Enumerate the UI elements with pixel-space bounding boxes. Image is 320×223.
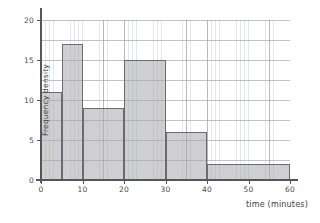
y-tick-mark xyxy=(37,140,41,141)
y-axis-title: Frequency density xyxy=(41,64,50,136)
histogram-figure: 010203040506005101520 time (minutes) Fre… xyxy=(0,0,320,223)
x-tick-label: 60 xyxy=(285,185,295,194)
x-tick-label: 40 xyxy=(202,185,212,194)
y-tick-label: 5 xyxy=(29,136,34,145)
x-tick-mark xyxy=(290,180,291,184)
x-tick-label: 20 xyxy=(119,185,129,194)
y-tick-mark xyxy=(37,60,41,61)
histogram-bar xyxy=(207,164,290,180)
histogram-bar xyxy=(83,108,125,180)
y-tick-label: 10 xyxy=(24,96,34,105)
y-tick-mark xyxy=(37,180,41,181)
x-axis-title: time (minutes) xyxy=(246,200,308,209)
x-tick-mark xyxy=(166,180,167,184)
histogram-bar xyxy=(166,132,208,180)
y-tick-label: 15 xyxy=(24,56,34,65)
x-tick-label: 0 xyxy=(39,185,44,194)
x-tick-mark xyxy=(124,180,125,184)
x-tick-mark xyxy=(41,180,42,184)
y-tick-mark xyxy=(37,20,41,21)
x-tick-label: 50 xyxy=(244,185,254,194)
plot-area xyxy=(41,20,290,180)
x-axis-line xyxy=(36,179,298,180)
x-tick-label: 30 xyxy=(161,185,171,194)
histogram-bar xyxy=(62,44,83,180)
y-tick-label: 20 xyxy=(24,16,34,25)
x-tick-mark xyxy=(207,180,208,184)
x-tick-label: 10 xyxy=(78,185,88,194)
x-tick-mark xyxy=(83,180,84,184)
x-tick-mark xyxy=(249,180,250,184)
histogram-bar xyxy=(124,60,166,180)
y-tick-label: 0 xyxy=(29,176,34,185)
